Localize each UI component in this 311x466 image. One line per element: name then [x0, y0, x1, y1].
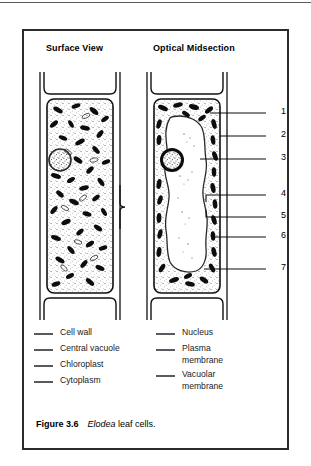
figure-caption: Figure 3.6Elodea leaf cells.: [36, 419, 156, 429]
legend-item-cell-wall: Cell wall: [34, 327, 154, 340]
legend-item-central-vacuole: Central vacuole: [34, 343, 154, 356]
legend: Cell wall Central vacuole Chloroplast Cy…: [34, 327, 278, 403]
caption-rest: leaf cells.: [116, 419, 156, 429]
legend-label: Chloroplast: [60, 359, 103, 371]
legend-item-nucleus: Nucleus: [156, 327, 274, 340]
legend-label: Cell wall: [60, 327, 92, 339]
legend-dash-icon: [156, 333, 175, 335]
legend-label: Cytoplasm: [60, 375, 101, 387]
legend-label: Vacuolar membrane: [182, 369, 223, 392]
panel-title-optical-midsection: Optical Midsection: [153, 43, 235, 53]
callout-leader-lines: [200, 100, 275, 280]
callout-number-5: 5: [281, 210, 295, 220]
callout-number-4: 4: [281, 188, 295, 198]
legend-dash-icon: [34, 365, 53, 367]
caption-figure-number: Figure 3.6: [36, 419, 79, 429]
page-top-rule: [0, 2, 311, 3]
panel-title-surface-view: Surface View: [46, 43, 103, 53]
legend-item-chloroplast: Chloroplast: [34, 359, 154, 372]
callout-number-3: 3: [281, 152, 295, 162]
legend-dash-icon: [34, 349, 53, 351]
legend-label: Plasma membrane: [182, 343, 223, 366]
legend-dash-icon: [34, 381, 53, 383]
callout-number-7: 7: [281, 262, 295, 272]
legend-dash-icon: [156, 349, 175, 351]
legend-column-right: Nucleus Plasma membrane Vacuolar membran…: [156, 327, 274, 395]
legend-item-vacuolar-membrane: Vacuolar membrane: [156, 369, 274, 392]
legend-item-plasma-membrane: Plasma membrane: [156, 343, 274, 366]
callout-number-1: 1: [281, 106, 295, 116]
legend-dash-icon: [34, 333, 53, 335]
callout-number-6: 6: [281, 230, 295, 240]
legend-label: Central vacuole: [60, 343, 120, 355]
legend-label: Nucleus: [182, 327, 213, 339]
legend-item-cytoplasm: Cytoplasm: [34, 375, 154, 388]
surface-view-cell-diagram: [38, 72, 122, 320]
caption-genus-name: Elodea: [88, 419, 116, 429]
callout-number-2: 2: [281, 129, 295, 139]
legend-dash-icon: [156, 375, 175, 377]
surface-view-wall-bracket: [118, 185, 132, 229]
legend-column-left: Cell wall Central vacuole Chloroplast Cy…: [34, 327, 154, 391]
